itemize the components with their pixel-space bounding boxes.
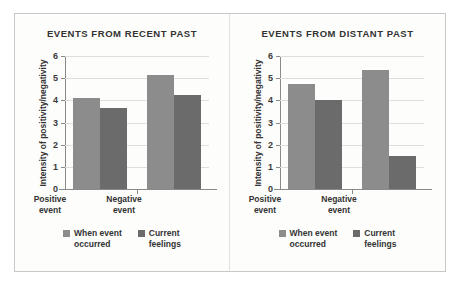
y-tick-label: 3: [53, 118, 58, 128]
y-tick-label: 3: [268, 118, 273, 128]
legend-item-current-feelings: Current feelings: [353, 228, 396, 249]
y-axis-tick: [61, 145, 65, 146]
bar-group-negative: [145, 56, 203, 189]
bar: [389, 156, 416, 189]
panel-title: EVENTS FROM DISTANT PAST: [230, 28, 445, 39]
bar: [73, 98, 100, 189]
y-axis-tick: [276, 189, 280, 190]
bar: [315, 100, 342, 189]
panel-title: EVENTS FROM RECENT PAST: [15, 28, 229, 39]
y-axis-tick: [276, 145, 280, 146]
bar: [288, 84, 315, 189]
category-label-line2: event: [299, 205, 379, 216]
bar: [362, 70, 389, 189]
y-axis-tick: [276, 56, 280, 57]
legend-label: Current feelings: [364, 228, 396, 249]
x-axis-line: [59, 189, 217, 190]
category-label-line1: Positive: [34, 194, 67, 204]
plot-area: 6 5 4 3 2 1 0: [280, 56, 424, 189]
y-axis-tick: [61, 78, 65, 79]
bar-group-negative: [360, 56, 418, 189]
chart-panel-distant-past: EVENTS FROM DISTANT PAST Intensity of po…: [230, 14, 445, 271]
y-axis-tick: [61, 123, 65, 124]
x-axis-line: [274, 189, 432, 190]
chart-figure-frame: EVENTS FROM RECENT PAST Intensity of pos…: [14, 13, 446, 272]
legend-label-line2: occurred: [290, 239, 338, 250]
category-label-line2: event: [10, 205, 90, 216]
y-tick-label: 6: [53, 51, 58, 61]
y-axis-title-text: Intensity of positivity/negativity: [38, 59, 48, 186]
bar-group-positive: [71, 56, 129, 189]
y-tick-label: 0: [53, 184, 58, 194]
y-axis-tick: [61, 56, 65, 57]
y-axis-tick: [276, 78, 280, 79]
chart-panel-recent-past: EVENTS FROM RECENT PAST Intensity of pos…: [15, 14, 230, 271]
category-label-negative: Negative event: [299, 194, 379, 216]
category-label-line1: Negative: [106, 194, 141, 204]
y-tick-label: 2: [268, 140, 273, 150]
legend-label: When event occurred: [290, 228, 338, 249]
y-tick-label: 5: [53, 73, 58, 83]
y-axis-title: Intensity of positivity/negativity: [252, 56, 264, 189]
legend-item-current-feelings: Current feelings: [138, 228, 181, 249]
y-tick-label: 4: [268, 95, 273, 105]
chart-legend: When event occurred Current feelings: [230, 228, 445, 249]
y-axis-title-text: Intensity of positivity/negativity: [253, 59, 263, 186]
legend-label-line1: When event: [74, 228, 122, 238]
legend-item-when-event-occurred: When event occurred: [63, 228, 122, 249]
y-tick-label: 4: [53, 95, 58, 105]
category-label-line2: event: [225, 205, 305, 216]
plot-inner: 6 5 4 3 2 1 0: [280, 56, 424, 189]
legend-swatch-icon: [138, 230, 145, 237]
legend-label: When event occurred: [74, 228, 122, 249]
category-label-line1: Positive: [249, 194, 282, 204]
category-label-positive: Positive event: [225, 194, 305, 216]
legend-item-when-event-occurred: When event occurred: [279, 228, 338, 249]
y-axis-tick: [276, 123, 280, 124]
y-tick-label: 1: [53, 162, 58, 172]
legend-swatch-icon: [63, 230, 70, 237]
y-tick-label: 5: [268, 73, 273, 83]
bar: [100, 108, 127, 189]
bar-group-positive: [286, 56, 344, 189]
category-label-line1: Negative: [321, 194, 356, 204]
y-tick-label: 6: [268, 51, 273, 61]
plot-area: 6 5 4 3 2 1 0: [65, 56, 209, 189]
category-label-positive: Positive event: [10, 194, 90, 216]
legend-swatch-icon: [279, 230, 286, 237]
y-tick-label: 0: [268, 184, 273, 194]
y-tick-label: 2: [53, 140, 58, 150]
legend-label-line2: occurred: [74, 239, 122, 250]
y-axis-tick: [276, 100, 280, 101]
y-axis-title: Intensity of positivity/negativity: [37, 56, 49, 189]
category-label-negative: Negative event: [84, 194, 164, 216]
legend-swatch-icon: [353, 230, 360, 237]
bar: [147, 75, 174, 189]
plot-inner: 6 5 4 3 2 1 0: [65, 56, 209, 189]
category-label-line2: event: [84, 205, 164, 216]
chart-legend: When event occurred Current feelings: [15, 228, 229, 249]
legend-label-line1: When event: [290, 228, 338, 238]
y-axis-tick: [61, 189, 65, 190]
bar: [174, 95, 201, 189]
legend-label-line2: feelings: [149, 239, 181, 250]
legend-label-line1: Current: [149, 228, 180, 238]
y-axis-tick: [61, 100, 65, 101]
y-tick-label: 1: [268, 162, 273, 172]
legend-label-line2: feelings: [364, 239, 396, 250]
y-axis-tick: [276, 167, 280, 168]
legend-label: Current feelings: [149, 228, 181, 249]
y-axis-tick: [61, 167, 65, 168]
legend-label-line1: Current: [364, 228, 395, 238]
